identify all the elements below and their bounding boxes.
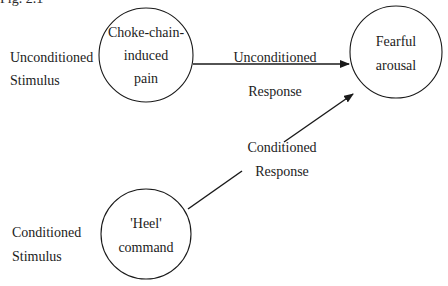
unconditioned-response-label: Unconditioned Response — [215, 50, 335, 100]
ucs-node-label: Choke-chain- induced pain — [100, 21, 192, 90]
cr-line-1: Conditioned — [232, 136, 332, 160]
ucs-line-1: Choke-chain- — [100, 21, 192, 44]
response-line-2: arousal — [350, 54, 442, 78]
cs-line-1: 'Heel' — [100, 212, 192, 236]
ucs-side-line-2: Stimulus — [10, 69, 93, 92]
conditioned-response-label: Conditioned Response — [232, 136, 332, 184]
ur-line-1: Unconditioned — [215, 45, 335, 70]
cs-line-2: command — [100, 236, 192, 260]
unconditioned-stimulus-label: Unconditioned Stimulus — [10, 46, 93, 92]
ucs-line-3: pain — [100, 67, 192, 90]
conditioning-diagram: Fig. 2.1 Choke-chain- induced pain Fearf… — [0, 0, 448, 286]
ur-line-2: Response — [215, 79, 335, 104]
response-node-label: Fearful arousal — [350, 30, 442, 78]
cs-side-line-1: Conditioned — [12, 221, 81, 245]
cr-line-2: Response — [232, 160, 332, 184]
cs-node-label: 'Heel' command — [100, 212, 192, 260]
cs-side-line-2: Stimulus — [12, 245, 81, 269]
response-line-1: Fearful — [350, 30, 442, 54]
ucs-side-line-1: Unconditioned — [10, 46, 93, 69]
ucs-line-2: induced — [100, 44, 192, 67]
conditioned-stimulus-label: Conditioned Stimulus — [12, 221, 81, 269]
